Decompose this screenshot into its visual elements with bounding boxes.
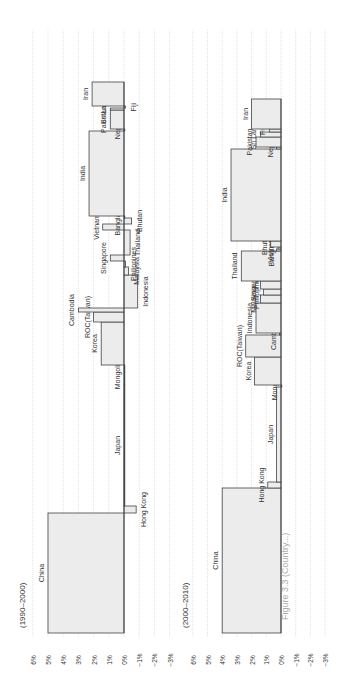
bar-roc-taiwan- [94, 312, 124, 322]
bar-label: Iran [82, 88, 89, 100]
bar-cambodia [78, 308, 124, 312]
axis-tick-label: 4% [60, 655, 67, 665]
bar-label: Thailand [231, 252, 238, 279]
axis-tick-label: 0% [121, 655, 128, 665]
bar-india [89, 131, 124, 216]
bar-hong-kong [268, 482, 281, 488]
bar-label: Korea [245, 362, 252, 381]
bar-philippines [263, 289, 281, 295]
bar-label: China [212, 551, 219, 569]
bar-label: ROC(Taiwan) [236, 325, 244, 367]
bar-malaysia [260, 295, 281, 303]
bar-china [48, 513, 124, 633]
bar-iran [92, 82, 124, 106]
bar-fiji [269, 129, 281, 132]
axis-tick-label: 3% [75, 655, 82, 665]
bar-iran [252, 99, 281, 129]
figure-page: 6%5%4%3%2%1%0%−1%−2%−3%(1990–2000)ChinaH… [0, 0, 351, 685]
bar-label: ROC(Taiwan) [84, 296, 92, 338]
panel-title: (1990–2000) [18, 582, 27, 628]
axis-tick-label: −1% [136, 653, 143, 666]
bar-label: Japan [114, 436, 122, 455]
axis-tick-label: 1% [263, 655, 270, 665]
growth-figure: 6%5%4%3%2%1%0%−1%−2%−3%(1990–2000)ChinaH… [0, 0, 351, 685]
bar-hong-kong [124, 506, 136, 513]
bar-label: Korea [91, 334, 98, 353]
bar-label: Indonesia [142, 276, 149, 306]
axis-tick-label: 5% [45, 655, 52, 665]
bar-label: Hong Kong [140, 492, 148, 527]
bar-label: Bhutan [136, 210, 143, 232]
bar-pakistan [256, 137, 281, 147]
bar-japan [277, 387, 281, 482]
bar-china [222, 488, 281, 633]
bar-korea [101, 322, 124, 365]
bar-thailand [124, 230, 130, 255]
figure-caption: Figure 3.3 (Country...) [280, 533, 290, 620]
bar-sri-lanka [110, 108, 124, 110]
bar-pakistan [110, 110, 124, 129]
axis-tick-label: 3% [234, 655, 241, 665]
bar-singapore [110, 255, 124, 261]
bar-label: Singapore [100, 242, 108, 274]
axis-tick-label: 5% [205, 655, 212, 665]
bar-label: Vietnam [93, 214, 100, 240]
axis-tick-label: −3% [322, 653, 329, 666]
axis-tick-label: 6% [190, 655, 197, 665]
axis-tick-label: −1% [293, 653, 300, 666]
bar-bhutan [124, 218, 132, 224]
chart-panel-1: 6%5%4%3%2%1%0%−1%−2%−3%(2000–2010)ChinaH… [181, 30, 329, 667]
axis-tick-label: 0% [278, 655, 285, 665]
axis-tick-label: −2% [307, 653, 314, 666]
bar-india [231, 149, 281, 241]
bar-singapore [260, 281, 281, 289]
bar-label: Iran [242, 108, 249, 120]
bar-korea [255, 357, 281, 385]
axis-tick-label: −2% [151, 653, 158, 666]
bar-label: Japan [267, 425, 275, 444]
axis-tick-label: 4% [219, 655, 226, 665]
bar-bhutan [271, 241, 281, 247]
bar-label: India [79, 166, 86, 181]
bar-label: Cambodia [68, 294, 75, 326]
bar-malaysia [124, 267, 129, 275]
axis-tick-label: 1% [106, 655, 113, 665]
bar-label: Fiji [130, 102, 138, 111]
bar-label: China [38, 564, 45, 582]
chart-panel-0: 6%5%4%3%2%1%0%−1%−2%−3%(1990–2000)ChinaH… [18, 30, 174, 667]
axis-tick-label: 2% [91, 655, 98, 665]
axis-tick-label: 6% [30, 655, 37, 665]
bar-label: India [221, 187, 228, 202]
axis-tick-label: −3% [167, 653, 174, 666]
axis-tick-label: 2% [249, 655, 256, 665]
bar-label: Hong Kong [258, 467, 266, 502]
panel-title: (2000–2010) [181, 582, 190, 628]
